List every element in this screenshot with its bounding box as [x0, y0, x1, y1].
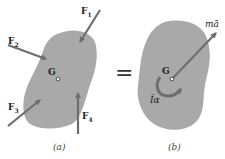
force-label-f1: F1: [81, 7, 92, 18]
center-label-a: G: [48, 68, 56, 77]
center-label-b: G: [162, 67, 170, 76]
force-label-f4: F4: [82, 112, 93, 123]
diagram-canvas: [0, 0, 225, 159]
caption-b: (b): [168, 142, 181, 152]
ma-label: mā: [205, 20, 219, 29]
equals-sign: =: [115, 60, 133, 85]
i-alpha-label: Īα: [150, 96, 160, 105]
center-of-mass-a: [56, 77, 60, 81]
rigid-body-b: [138, 21, 210, 130]
force-label-f3: F3: [8, 103, 19, 114]
force-label-f2: F2: [8, 37, 19, 48]
caption-a: (a): [53, 142, 65, 152]
center-of-mass-b: [170, 77, 174, 81]
